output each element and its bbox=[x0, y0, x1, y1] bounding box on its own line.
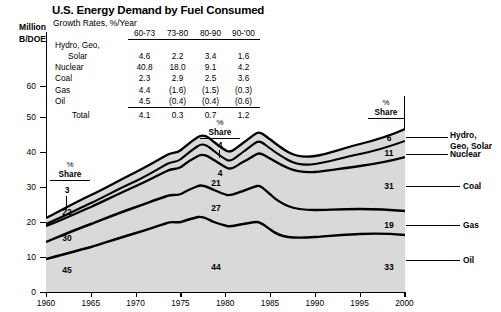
share-value-middle-oil: 44 bbox=[205, 262, 227, 272]
stacked-area-chart bbox=[46, 32, 405, 293]
x-tick-label-1970: 1970 bbox=[116, 298, 156, 308]
share-value-middle-coal: 21 bbox=[205, 178, 227, 188]
leader-line-coal bbox=[412, 186, 460, 187]
page-title: U.S. Energy Demand by Fuel Consumed bbox=[52, 4, 264, 16]
share-value-middle-gas: 27 bbox=[205, 203, 227, 213]
share-value-right-gas: 19 bbox=[378, 220, 400, 230]
leader-line-gas bbox=[412, 225, 460, 226]
y-axis-caption-line1: Million bbox=[2, 21, 46, 33]
legend-label-oil: Oil bbox=[463, 255, 474, 266]
legend-label-nuclear: Nuclear bbox=[450, 149, 481, 160]
leader-line-hydro bbox=[412, 137, 448, 138]
y-tick-label-10: 10 bbox=[6, 252, 36, 262]
x-tick-label-1965: 1965 bbox=[71, 298, 111, 308]
share-value-right-oil: 33 bbox=[378, 262, 400, 272]
y-tick-label-60: 60 bbox=[6, 81, 36, 91]
legend-label-hydro-geo-solar: Hydro, Geo, Solar bbox=[450, 130, 492, 151]
x-tick-label-1975: 1975 bbox=[160, 298, 200, 308]
share-value-left-coal: 30 bbox=[56, 233, 78, 243]
chart-subtitle: Growth Rates, %/Year bbox=[53, 18, 137, 28]
share-value-middle-hydro: 4 bbox=[209, 140, 231, 150]
x-tick-label-1980: 1980 bbox=[205, 298, 245, 308]
leader-line-oil bbox=[412, 260, 460, 261]
legend-label-hydro-line1: Hydro, bbox=[450, 130, 492, 141]
share-pointer-middle-hydro bbox=[219, 150, 220, 158]
share-pct-symbol-middle: % bbox=[200, 118, 240, 128]
x-tick-label-1995: 1995 bbox=[340, 298, 380, 308]
y-tick-label-20: 20 bbox=[6, 217, 36, 227]
share-value-left-oil: 45 bbox=[56, 265, 78, 275]
legend-label-coal: Coal bbox=[463, 181, 481, 192]
x-tick-label-2000: 2000 bbox=[384, 298, 424, 308]
y-tick-label-50: 50 bbox=[6, 112, 36, 122]
share-value-right-nuclear: 11 bbox=[378, 148, 400, 158]
share-header-left: % Share bbox=[50, 160, 90, 181]
y-axis-caption-line2: B/DOE bbox=[2, 33, 46, 45]
share-word-left: Share bbox=[50, 170, 90, 181]
share-value-left-gas: 22 bbox=[56, 207, 78, 217]
share-value-middle-nuclear: 4 bbox=[209, 168, 231, 178]
x-tick-label-1985: 1985 bbox=[250, 298, 290, 308]
share-value-left-hydro: 3 bbox=[56, 185, 78, 195]
share-header-middle: % Share bbox=[200, 118, 240, 139]
y-axis-caption: Million B/DOE bbox=[2, 21, 46, 45]
share-value-right-hydro: 6 bbox=[378, 133, 400, 143]
share-word-right: Share bbox=[368, 108, 404, 119]
share-value-right-coal: 31 bbox=[378, 181, 400, 191]
share-pct-symbol-left: % bbox=[50, 160, 90, 170]
legend-label-gas: Gas bbox=[463, 220, 479, 231]
share-header-right: % Share bbox=[368, 98, 404, 119]
leader-line-nuclear bbox=[412, 154, 448, 155]
y-tick-label-40: 40 bbox=[6, 147, 36, 157]
share-pct-symbol-right: % bbox=[368, 98, 404, 108]
share-word-middle: Share bbox=[200, 128, 240, 139]
x-tick-label-1990: 1990 bbox=[295, 298, 335, 308]
x-tick-label-1960: 1960 bbox=[26, 298, 66, 308]
y-tick-label-0: 0 bbox=[6, 287, 36, 297]
y-tick-label-30: 30 bbox=[6, 182, 36, 192]
